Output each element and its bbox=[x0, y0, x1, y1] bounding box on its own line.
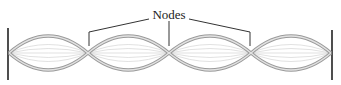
leader-node-1 bbox=[89, 19, 149, 46]
standing-wave-diagram: Nodes bbox=[0, 0, 341, 85]
wave-envelopes bbox=[9, 36, 331, 70]
leader-node-3 bbox=[189, 19, 250, 46]
nodes-label: Nodes bbox=[152, 7, 185, 22]
node-leader-lines bbox=[89, 19, 250, 46]
